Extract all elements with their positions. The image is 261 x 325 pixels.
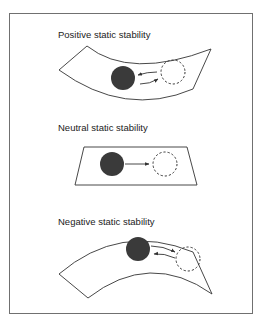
ball [111, 66, 135, 90]
label-negative: Negative static stability [58, 216, 155, 227]
ball [126, 237, 150, 261]
label-neutral: Neutral static stability [58, 122, 148, 133]
static-stability-diagram: Positive static stability Neutral static… [0, 0, 261, 325]
flat-surface [75, 147, 197, 185]
label-positive: Positive static stability [58, 29, 151, 40]
ball [100, 152, 124, 176]
